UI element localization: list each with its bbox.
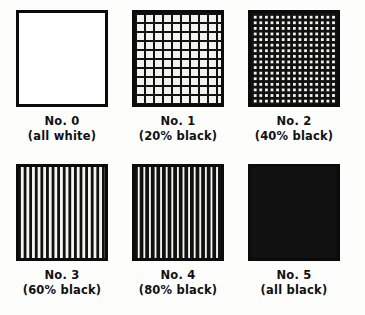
patch-swatch-4 [132, 164, 224, 261]
patch-item-0: No. 0 (all white) [4, 10, 120, 144]
patch-caption-1: No. 1 (20% black) [120, 114, 236, 144]
patch-description-2: (40% black) [236, 129, 352, 144]
patch-item-5: No. 5 (all black) [236, 164, 352, 298]
patch-name-0: No. 0 [4, 114, 120, 129]
patch-caption-2: No. 2 (40% black) [236, 114, 352, 144]
patch-description-1: (20% black) [120, 129, 236, 144]
density-patch-figure: No. 0 (all white) No. 1 (20% black) No. … [0, 0, 365, 315]
patch-item-1: No. 1 (20% black) [120, 10, 236, 144]
patch-item-3: No. 3 (60% black) [4, 164, 120, 298]
patch-caption-0: No. 0 (all white) [4, 114, 120, 144]
patch-name-2: No. 2 [236, 114, 352, 129]
patch-name-4: No. 4 [120, 268, 236, 283]
patch-description-5: (all black) [236, 283, 352, 298]
patch-item-4: No. 4 (80% black) [120, 164, 236, 298]
patch-description-3: (60% black) [4, 283, 120, 298]
patch-description-4: (80% black) [120, 283, 236, 298]
patch-caption-5: No. 5 (all black) [236, 268, 352, 298]
patch-item-2: No. 2 (40% black) [236, 10, 352, 144]
patch-swatch-1 [132, 10, 224, 107]
patch-name-5: No. 5 [236, 268, 352, 283]
patch-name-1: No. 1 [120, 114, 236, 129]
patch-caption-3: No. 3 (60% black) [4, 268, 120, 298]
patch-caption-4: No. 4 (80% black) [120, 268, 236, 298]
patch-swatch-5 [248, 164, 340, 261]
patch-swatch-2 [248, 10, 340, 107]
patch-swatch-0 [16, 10, 108, 107]
patch-name-3: No. 3 [4, 268, 120, 283]
patch-description-0: (all white) [4, 129, 120, 144]
patch-swatch-3 [16, 164, 108, 261]
